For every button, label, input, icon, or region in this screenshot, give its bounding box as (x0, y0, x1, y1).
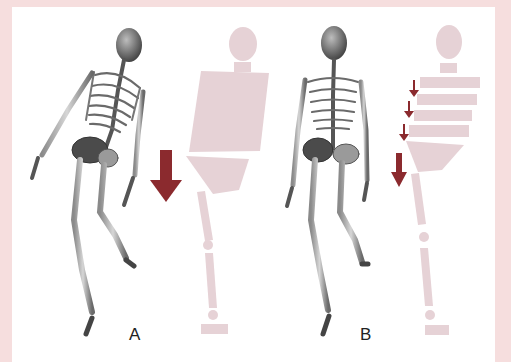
figure-illustration (0, 0, 511, 362)
figure-frame: A B (0, 0, 511, 362)
large-down-arrow-icon (150, 150, 182, 202)
schematic-b (406, 25, 480, 335)
panel-label-b: B (360, 325, 371, 345)
skeleton-a (32, 28, 143, 334)
panel-label-a: A (129, 325, 140, 345)
small-down-arrow-icon (399, 124, 409, 141)
small-down-arrow-icon (404, 101, 414, 118)
schematic-a (186, 27, 269, 334)
medium-down-arrow-icon (391, 153, 407, 187)
skeleton-b (287, 26, 368, 334)
